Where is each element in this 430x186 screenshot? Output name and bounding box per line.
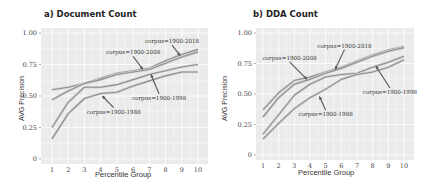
x-tick-label: 2 (277, 162, 281, 170)
x-tick-label: 9 (386, 162, 390, 170)
x-tick-label: 8 (163, 166, 167, 174)
panel-dda-count: b) DDA Count 00.250.500.751.001234567891… (215, 0, 430, 186)
y-axis-label: AVG Precision (18, 76, 25, 121)
y-tick-label: 0.75 (23, 61, 37, 69)
x-tick-label: 3 (292, 162, 296, 170)
annotation-label: corpus=1900-2008 (106, 49, 161, 56)
y-tick-label: 1.00 (23, 29, 37, 37)
plot-area: 00.250.500.751.0012345678910corpus=1900-… (215, 0, 430, 186)
annotation-label: corpus=1900-1988 (87, 109, 142, 116)
y-tick-label: 0.75 (238, 60, 252, 68)
x-tick-label: 10 (400, 162, 408, 170)
x-tick-label: 2 (66, 166, 70, 174)
x-tick-label: 8 (371, 162, 375, 170)
annotation-label: corpus=1900-1998 (132, 95, 187, 102)
annotation-label: corpus=1900-2008 (262, 55, 317, 62)
y-tick-label: 0.50 (238, 90, 252, 98)
annotation-label: corpus=1900-1988 (299, 111, 354, 118)
x-axis-label: Percentile Group (298, 168, 354, 177)
y-tick-label: 0.25 (23, 124, 37, 132)
annotation-label: corpus=1900-2018 (145, 38, 200, 45)
annotation-label: corpus=1900-2018 (317, 43, 372, 50)
y-tick-label: 1.00 (238, 29, 252, 37)
y-tick-label: 0.25 (238, 121, 252, 129)
x-tick-label: 10 (194, 166, 202, 174)
x-axis-label: Percentile Group (95, 170, 151, 179)
panel-document-count: a) Document Count 00.250.500.751.0012345… (0, 0, 215, 186)
y-axis-label: AVG Precision (221, 76, 228, 121)
x-tick-label: 1 (50, 166, 54, 174)
y-tick-label: 0 (33, 155, 37, 163)
x-tick-label: 7 (355, 162, 359, 170)
annotation-label: corpus=1900-1998 (363, 89, 418, 96)
x-tick-label: 9 (180, 166, 184, 174)
x-tick-label: 1 (261, 162, 265, 170)
plot-area: 00.250.500.751.0012345678910corpus=1900-… (0, 0, 215, 186)
x-tick-label: 3 (82, 166, 86, 174)
y-tick-label: 0 (248, 151, 252, 159)
